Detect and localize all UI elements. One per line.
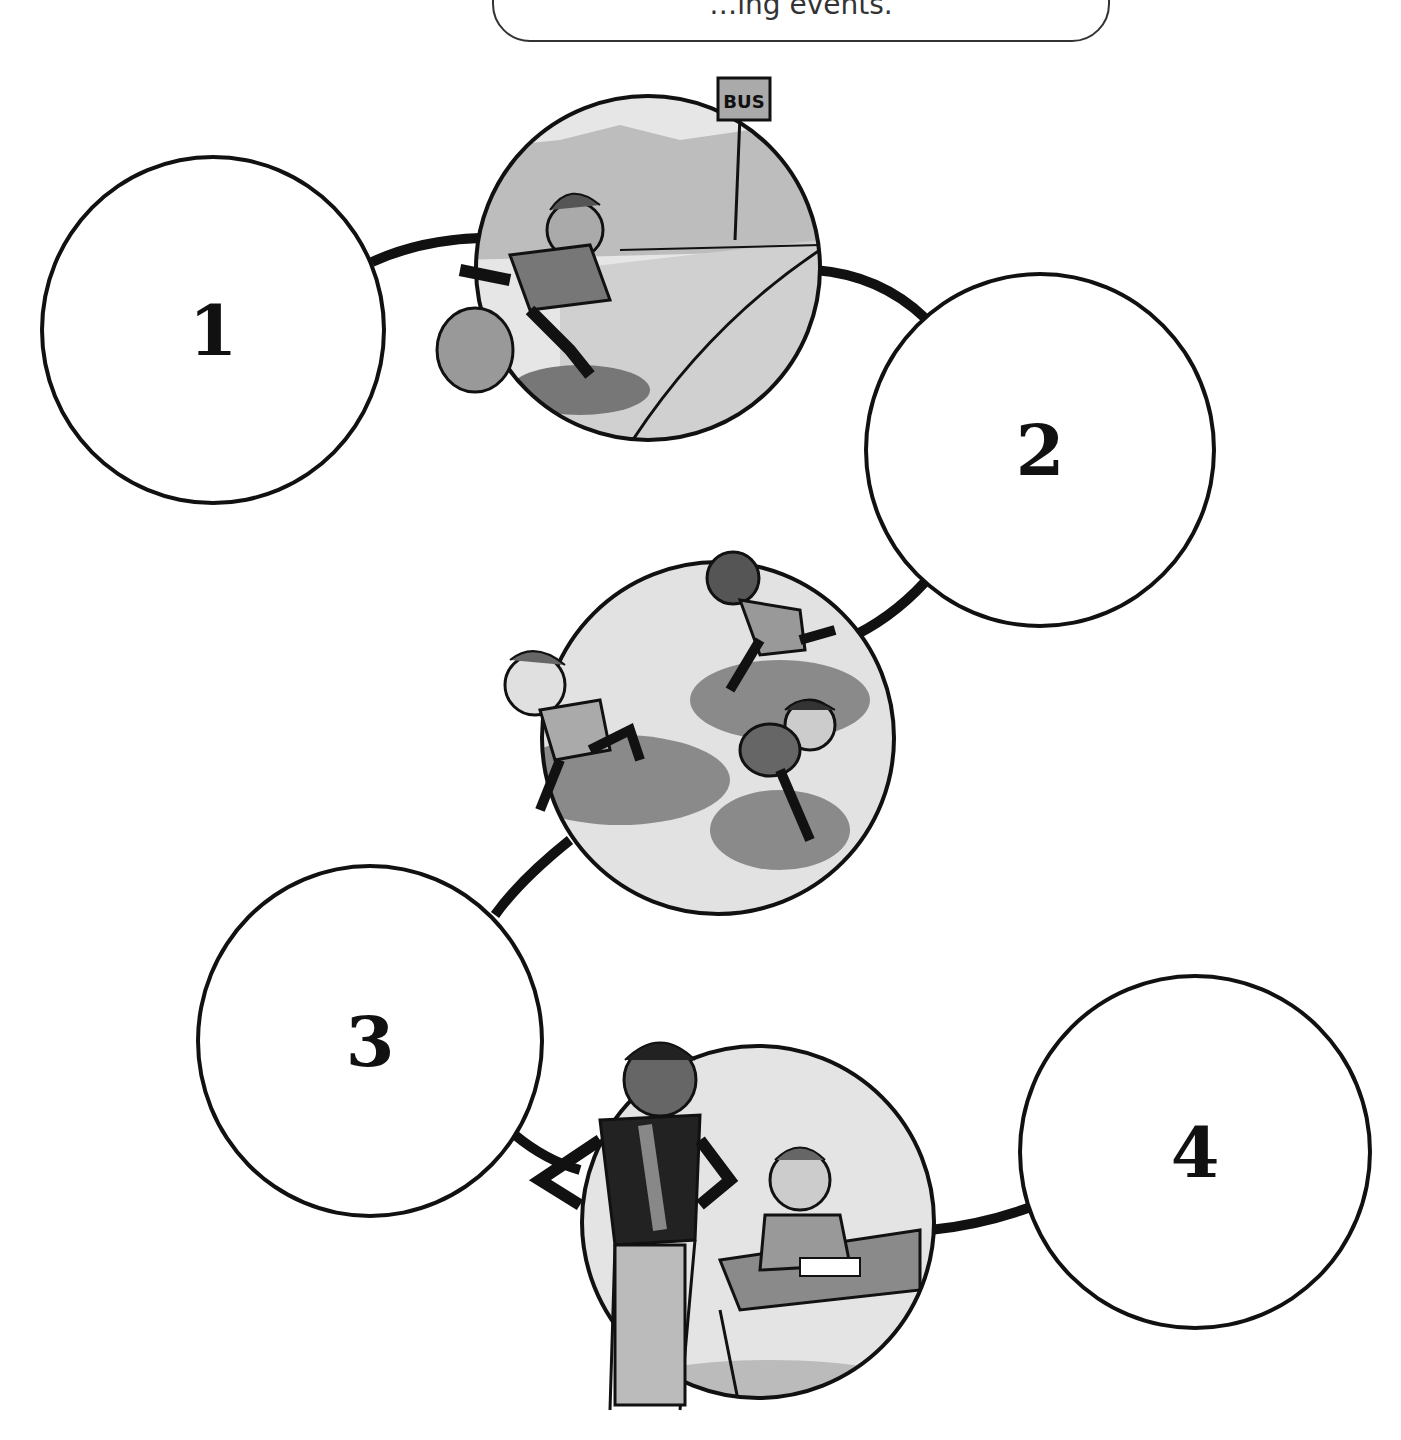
sequence-number-4: 4 (1171, 1111, 1220, 1194)
teacher-student-illustration (520, 1030, 940, 1420)
children-running-illustration (460, 540, 900, 930)
sequence-number-2: 2 (1016, 409, 1065, 492)
instruction-box: …ing events. (492, 0, 1110, 42)
sequence-circle-4[interactable]: 4 (1018, 974, 1372, 1330)
sequencing-worksheet: …ing events. BUS (0, 0, 1401, 1440)
bus-sign-text: BUS (723, 91, 764, 112)
sequence-circle-3[interactable]: 3 (196, 864, 544, 1218)
sequence-number-1: 1 (189, 289, 238, 372)
bus-stop-illustration: BUS (420, 70, 840, 460)
picture-teacher-student (520, 1030, 940, 1420)
instruction-text: …ing events. (494, 0, 1108, 21)
sequence-circle-1[interactable]: 1 (40, 155, 386, 505)
sequence-circle-2[interactable]: 2 (864, 272, 1216, 628)
picture-bus-stop: BUS (420, 70, 840, 460)
sequence-number-3: 3 (346, 1000, 395, 1083)
picture-children-running (460, 540, 900, 930)
